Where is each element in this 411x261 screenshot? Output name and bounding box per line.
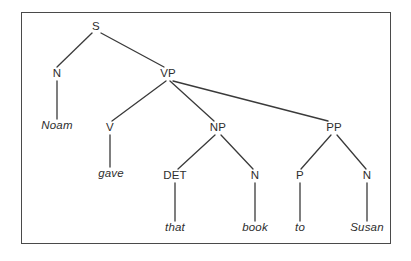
tree-terminal-gave: gave (98, 168, 124, 180)
tree-node-n2: N (251, 170, 260, 182)
tree-node-pp: PP (326, 122, 342, 134)
tree-node-vp: VP (160, 68, 176, 80)
tree-terminal-noam: Noam (41, 120, 72, 132)
tree-node-p: P (296, 170, 304, 182)
tree-node-det: DET (163, 170, 187, 182)
syntax-tree-figure: SNVPVNPPPDETNPN NoamgavethatbooktoSusan (0, 0, 411, 261)
tree-terminal-susan: Susan (350, 222, 384, 234)
tree-terminal-that: that (165, 222, 185, 234)
tree-node-np: NP (210, 122, 226, 134)
tree-node-n3: N (363, 170, 372, 182)
tree-terminal-to: to (295, 222, 305, 234)
tree-node-v: V (106, 122, 114, 134)
tree-node-s: S (92, 21, 100, 33)
tree-terminal-book: book (242, 222, 268, 234)
tree-node-n1: N (53, 68, 62, 80)
